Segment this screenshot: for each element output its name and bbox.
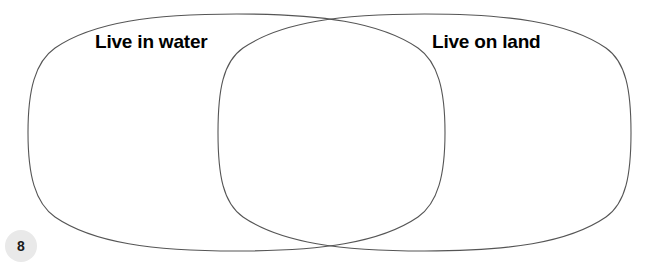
venn-worksheet: Live in water Live on land 8 (0, 0, 657, 273)
page-number-text: 8 (17, 239, 25, 253)
venn-right-circle (218, 14, 631, 251)
venn-left-label: Live in water (95, 32, 208, 52)
venn-right-label: Live on land (432, 32, 540, 52)
venn-left-circle (28, 14, 445, 251)
page-number-badge: 8 (5, 230, 37, 262)
